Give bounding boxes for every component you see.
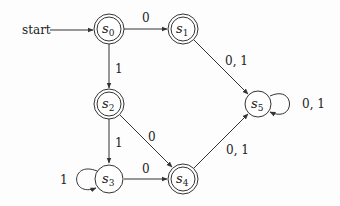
edge-label-s0-s1: 0 bbox=[142, 11, 150, 25]
state-s3: s3 bbox=[95, 165, 123, 193]
state-s1: s1 bbox=[168, 14, 198, 44]
loop-s5 bbox=[270, 94, 290, 115]
edge-s2-s4 bbox=[120, 115, 172, 167]
start-label: start bbox=[22, 23, 51, 37]
loop-label-s5: 0, 1 bbox=[302, 97, 325, 111]
edge-label-s4-s5: 0, 1 bbox=[226, 143, 249, 157]
edge-label-s3-s4: 0 bbox=[142, 162, 150, 176]
state-s0: s0 bbox=[94, 14, 124, 44]
state-s5: s5 bbox=[245, 91, 271, 117]
loop-s3 bbox=[77, 169, 97, 190]
edge-s4-s5 bbox=[194, 114, 248, 168]
diagram-svg: start 0 1 0, 1 1 0 0 0, 1 1 0, 1 s0 s1 s… bbox=[0, 0, 340, 206]
edge-label-s2-s4: 0 bbox=[148, 130, 156, 144]
state-diagram: start 0 1 0, 1 1 0 0 0, 1 1 0, 1 s0 s1 s… bbox=[0, 0, 340, 206]
state-s4: s4 bbox=[168, 164, 198, 194]
loop-label-s3: 1 bbox=[60, 173, 68, 187]
state-s2: s2 bbox=[94, 89, 124, 119]
edge-label-s0-s2: 1 bbox=[115, 62, 123, 76]
edge-label-s1-s5: 0, 1 bbox=[225, 54, 248, 68]
edge-label-s2-s3: 1 bbox=[115, 136, 123, 150]
